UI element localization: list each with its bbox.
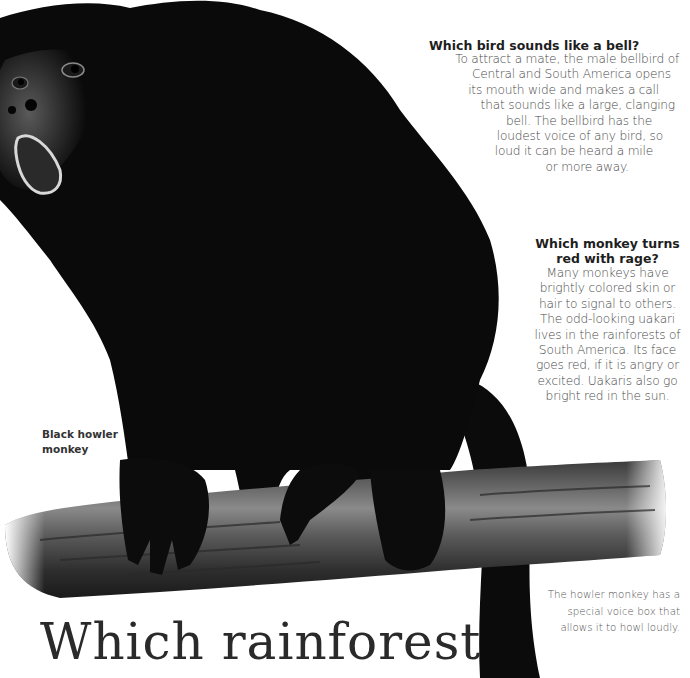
question-body: To attract a mate, the male bellbird of …	[385, 52, 685, 175]
body-line: To attract a mate, the male bellbird of	[385, 52, 685, 67]
side-note: The howler monkey has a special voice bo…	[480, 586, 680, 636]
body-line: bright red in the sun.	[525, 389, 690, 404]
body-line: loud it can be heard a mile	[385, 144, 685, 159]
body-line: South America. Its face	[525, 343, 690, 358]
body-line: that sounds like a large, clanging	[385, 98, 685, 113]
body-line: hair to signal to others.	[525, 297, 690, 312]
question-title: Which monkey turns red with rage?	[525, 236, 690, 266]
question-title: Which bird sounds like a bell?	[429, 38, 639, 53]
body-line: loudest voice of any bird, so	[385, 129, 685, 144]
body-line: brightly colored skin or	[525, 281, 690, 296]
page-headline: Which rainforest	[40, 612, 481, 672]
body-line: or more away.	[385, 160, 685, 175]
body-line: its mouth wide and makes a call	[385, 83, 685, 98]
body-line: goes red, if it is angry or	[525, 358, 690, 373]
question-body: Many monkeys have brightly colored skin …	[525, 266, 690, 405]
image-caption: Black howler monkey	[42, 427, 118, 457]
body-line: Central and South America opens	[385, 67, 685, 82]
question-uakari: Which monkey turns red with rage? Many m…	[525, 236, 690, 405]
monkey-nostril	[25, 99, 37, 111]
body-line: lives in the rainforests of	[525, 328, 690, 343]
body-line: Many monkeys have	[525, 266, 690, 281]
body-line: The odd-looking uakari	[525, 312, 690, 327]
body-line: bell. The bellbird has the	[385, 114, 685, 129]
body-line: excited. Uakaris also go	[525, 374, 690, 389]
